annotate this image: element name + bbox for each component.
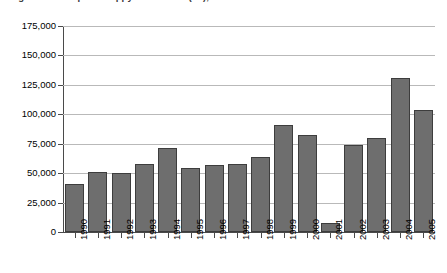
x-axis-tick-label: 1995 bbox=[195, 230, 205, 240]
x-axis-tick bbox=[400, 233, 401, 238]
x-axis-tick bbox=[191, 233, 192, 238]
x-axis-tick-label: 1997 bbox=[241, 230, 251, 240]
x-axis-tick bbox=[423, 233, 424, 238]
x-axis-tick-label: 1992 bbox=[125, 230, 135, 240]
y-axis-tick bbox=[58, 232, 63, 233]
x-axis-tick bbox=[237, 233, 238, 238]
x-axis-tick-label: 1999 bbox=[288, 230, 298, 240]
x-axis-tick-label: 2002 bbox=[358, 230, 368, 240]
x-axis-labels: 1990199119921993199419951996199719981999… bbox=[0, 0, 447, 273]
x-axis-tick bbox=[168, 233, 169, 238]
x-axis-tick-label: 1994 bbox=[172, 230, 182, 240]
y-axis-tick bbox=[58, 114, 63, 115]
x-axis-tick-label: 2001 bbox=[334, 230, 344, 240]
x-axis-tick bbox=[377, 233, 378, 238]
x-axis-tick-label: 1993 bbox=[148, 230, 158, 240]
x-axis-tick bbox=[214, 233, 215, 238]
x-axis-tick-label: 1990 bbox=[79, 230, 89, 240]
bar-chart: Afghanistan: Opium Poppy Cultivation (ha… bbox=[0, 0, 447, 273]
x-axis-tick bbox=[330, 233, 331, 238]
y-axis-tick bbox=[58, 173, 63, 174]
x-axis-tick-label: 1998 bbox=[265, 230, 275, 240]
x-axis-tick bbox=[284, 233, 285, 238]
y-axis-tick bbox=[58, 144, 63, 145]
x-axis-tick bbox=[98, 233, 99, 238]
x-axis-tick-label: 2000 bbox=[311, 230, 321, 240]
x-axis-tick-label: 1991 bbox=[102, 230, 112, 240]
x-axis-tick bbox=[307, 233, 308, 238]
y-axis-tick bbox=[58, 85, 63, 86]
x-axis-tick-label: 2004 bbox=[404, 230, 414, 240]
y-axis-tick bbox=[58, 55, 63, 56]
x-axis-tick bbox=[354, 233, 355, 238]
x-axis-tick-label: 2003 bbox=[381, 230, 391, 240]
x-axis-tick bbox=[261, 233, 262, 238]
x-axis-tick bbox=[144, 233, 145, 238]
y-axis-tick bbox=[58, 203, 63, 204]
x-axis-tick-label: 2005 bbox=[427, 230, 437, 240]
x-axis-tick bbox=[121, 233, 122, 238]
y-axis-tick bbox=[58, 26, 63, 27]
x-axis-tick-label: 1996 bbox=[218, 230, 228, 240]
x-axis-tick bbox=[75, 233, 76, 238]
